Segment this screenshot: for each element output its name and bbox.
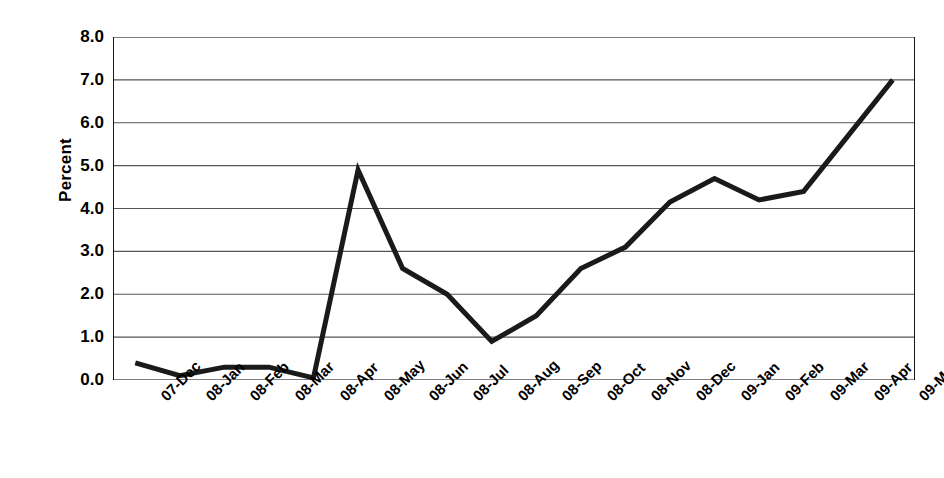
y-axis-tick-label: 1.0 — [80, 327, 104, 347]
y-axis-tick-label: 2.0 — [80, 284, 104, 304]
data-series-line — [135, 80, 892, 378]
y-axis-tick-label: 3.0 — [80, 241, 104, 261]
chart-svg — [113, 37, 915, 380]
x-axis-tick-label: 09-Mar — [826, 392, 838, 404]
x-axis-tick-label: 08-Jun — [425, 392, 437, 404]
x-axis-tick-label: 08-Aug — [514, 392, 526, 404]
x-axis-tick-label: 08-Nov — [647, 392, 659, 404]
y-axis-tick-label: 5.0 — [80, 156, 104, 176]
x-axis-tick-label: 08-Oct — [603, 392, 615, 404]
x-axis-tick-label: 09-Feb — [781, 392, 793, 404]
x-axis-tick-label: 08-May — [380, 392, 392, 404]
x-axis-tick-label: 08-Sep — [558, 392, 570, 404]
x-axis-tick-label: 09-Jan — [737, 392, 749, 404]
y-axis-tick-labels: 8.07.06.05.04.03.02.01.00.0 — [0, 0, 112, 478]
plot-area — [113, 37, 915, 380]
x-axis-tick-label: 08-Mar — [291, 392, 303, 404]
y-axis-tick-label: 0.0 — [80, 370, 104, 390]
x-axis-tick-label: 09-Apr — [870, 392, 882, 404]
y-axis-tick-label: 6.0 — [80, 113, 104, 133]
x-axis-tick-label: 08-Jan — [202, 392, 214, 404]
x-axis-tick-label: 07-Dec — [157, 392, 169, 404]
y-axis-tick-label: 4.0 — [80, 199, 104, 219]
x-axis-tick-label: 08-Apr — [336, 392, 348, 404]
x-axis-tick-label: 09-May — [915, 392, 927, 404]
x-axis-tick-label: 08-Feb — [246, 392, 258, 404]
y-axis-tick-label: 7.0 — [80, 70, 104, 90]
x-axis-tick-label: 08-Jul — [469, 392, 481, 404]
chart-figure: Percent 8.07.06.05.04.03.02.01.00.0 07-D… — [0, 0, 944, 478]
x-axis-tick-label: 08-Dec — [692, 392, 704, 404]
y-axis-tick-label: 8.0 — [80, 27, 104, 47]
